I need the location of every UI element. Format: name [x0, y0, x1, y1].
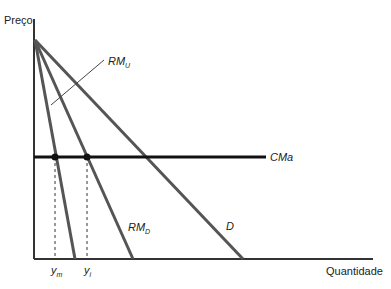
y-axis-label: Preço — [4, 14, 33, 26]
rmd-line — [35, 40, 133, 259]
ym-point — [52, 154, 59, 161]
rmu-label: RMU — [108, 55, 131, 69]
demand-label: D — [226, 220, 234, 232]
yi-point — [84, 154, 91, 161]
cma-label: CMa — [270, 151, 293, 163]
rmu-line — [35, 40, 75, 259]
ym-label: ym — [50, 264, 63, 278]
yi-label: yi — [83, 264, 92, 278]
rmd-label: RMD — [128, 221, 150, 235]
x-axis-label: Quantidade — [326, 265, 383, 277]
monopoly-diagram: Preço Quantidade RMU RMD D CMa ym yi — [0, 0, 391, 289]
